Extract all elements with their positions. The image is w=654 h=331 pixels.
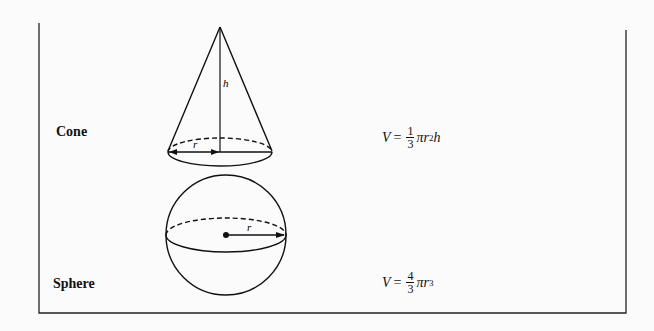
- formula-lhs: V: [382, 275, 391, 291]
- formula-pi: π: [416, 275, 423, 291]
- formula-tail: h: [433, 130, 440, 146]
- formula-fraction: 1 3: [406, 125, 414, 150]
- formula-eq: =: [394, 130, 402, 146]
- cone-height-label: h: [223, 77, 229, 89]
- frame-border: [39, 23, 626, 313]
- shape-label-sphere: Sphere: [53, 276, 95, 292]
- formula-fraction: 4 3: [406, 270, 414, 295]
- shape-label-cone: Cone: [56, 124, 87, 140]
- cone-volume-formula: V = 1 3 π r 2 h: [382, 125, 440, 150]
- table-frame: h r r: [0, 0, 654, 331]
- cone-diagram: h r: [168, 27, 272, 166]
- cone-radius-label: r: [193, 138, 198, 150]
- formula-eq: =: [394, 275, 402, 291]
- sphere-volume-formula: V = 4 3 π r 3: [382, 270, 433, 295]
- formula-pi: π: [416, 130, 423, 146]
- formula-lhs: V: [382, 130, 391, 146]
- formula-exponent: 3: [429, 278, 434, 288]
- sphere-radius-label: r: [247, 221, 252, 233]
- sphere-diagram: r: [166, 175, 286, 295]
